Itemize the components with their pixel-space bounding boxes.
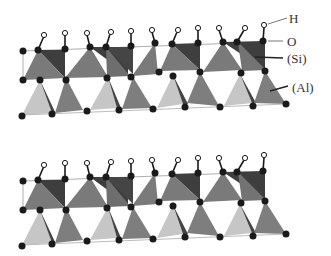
hydrogen-label: H (289, 12, 298, 25)
oxygen-label: O (287, 35, 296, 48)
lower-layer (19, 152, 290, 249)
crystal-structure-diagram (0, 0, 331, 256)
upper-layer (19, 22, 290, 119)
silicon-label: (Si) (287, 52, 307, 65)
aluminum-label: (Al) (292, 81, 314, 94)
